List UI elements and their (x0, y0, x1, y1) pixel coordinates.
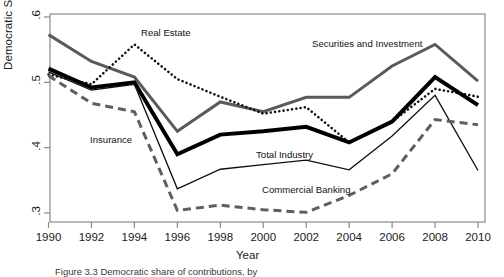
series-label-securities-and-investment: Securities and Investment (312, 38, 422, 49)
x-tick-label: 1994 (112, 231, 156, 243)
x-tick-label: 2010 (456, 231, 500, 243)
y-tick-label: .4 (30, 138, 42, 154)
series-label-real-estate: Real Estate (141, 27, 191, 38)
y-tick-label: .3 (30, 203, 42, 219)
x-tick-label: 1998 (198, 231, 242, 243)
figure-caption: Figure 3.3 Democratic share of contribut… (55, 266, 257, 277)
x-tick-label: 1996 (155, 231, 199, 243)
x-tick-label: 2002 (284, 231, 328, 243)
x-tick-label: 2006 (370, 231, 414, 243)
series-label-insurance: Insurance (90, 134, 132, 145)
y-tick-label: .5 (30, 72, 42, 88)
x-tick-label: 2008 (413, 231, 457, 243)
x-tick-label: 1992 (69, 231, 113, 243)
series-line-real-estate (49, 44, 479, 142)
series-label-total-industry: Total Industry (256, 149, 313, 160)
y-axis-ticks (44, 17, 50, 213)
x-tick-label: 1990 (27, 231, 71, 243)
x-axis-ticks (49, 222, 479, 228)
y-tick-label: .6 (30, 7, 42, 23)
series-label-commercial-banking: Commercial Banking (262, 184, 351, 195)
x-tick-label: 2000 (241, 231, 285, 243)
x-tick-label: 2004 (327, 231, 371, 243)
